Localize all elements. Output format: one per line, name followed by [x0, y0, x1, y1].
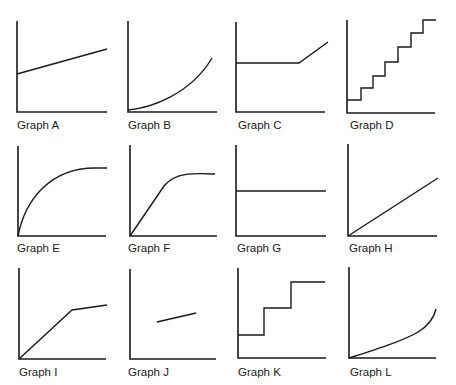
- graph-d-label: Graph D: [350, 120, 393, 132]
- graph-a-label: Graph A: [17, 120, 59, 132]
- axes: [348, 144, 437, 236]
- graph-k: [238, 268, 326, 358]
- graph-l: [349, 267, 436, 358]
- graph-c: [236, 22, 328, 112]
- graph-e: [18, 146, 107, 236]
- axes: [349, 267, 436, 358]
- axes: [130, 269, 216, 359]
- graph-grid: [0, 0, 456, 385]
- graph-f: [130, 145, 217, 236]
- graph-h: [348, 144, 438, 236]
- graph-a: [17, 21, 107, 112]
- plot-curve: [130, 173, 215, 236]
- plot-line: [157, 313, 196, 322]
- graph-b: [128, 21, 217, 112]
- graph-g: [236, 145, 326, 236]
- graph-j-label: Graph J: [128, 367, 169, 379]
- plot-line: [236, 42, 328, 63]
- plot-line: [348, 178, 438, 236]
- axes: [18, 146, 106, 236]
- plot-curve: [128, 58, 212, 110]
- axes: [128, 21, 217, 112]
- axes: [236, 22, 325, 112]
- graph-i-label: Graph I: [19, 367, 57, 379]
- graph-d: [347, 20, 436, 113]
- axes: [19, 268, 106, 359]
- graph-c-label: Graph C: [238, 120, 281, 132]
- plot-curve: [18, 168, 107, 236]
- axes: [17, 21, 107, 112]
- plot-line: [19, 305, 107, 359]
- plot-line: [17, 49, 107, 74]
- graph-e-label: Graph E: [17, 243, 60, 255]
- axes: [347, 20, 435, 113]
- graph-k-label: Graph K: [238, 367, 281, 379]
- graph-f-label: Graph F: [128, 243, 170, 255]
- axes: [130, 145, 217, 236]
- graph-g-label: Graph G: [237, 243, 281, 255]
- plot-staircase: [238, 282, 325, 335]
- graph-l-label: Graph L: [350, 367, 392, 379]
- graph-i: [19, 268, 107, 359]
- graph-h-label: Graph H: [349, 243, 392, 255]
- graph-b-label: Graph B: [128, 120, 171, 132]
- plot-curve: [349, 309, 436, 358]
- graph-j: [130, 269, 216, 359]
- plot-staircase: [347, 20, 436, 100]
